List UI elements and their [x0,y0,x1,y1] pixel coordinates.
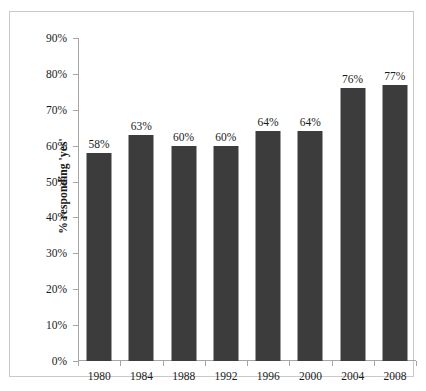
x-axis-tick [163,361,164,366]
bar-value-label: 64% [258,116,279,128]
chart-frame: % responding 'yes' 0%10%20%30%40%50%60%7… [9,11,414,377]
y-axis-tick-label: 50% [21,176,67,188]
x-axis-category-label: 2004 [341,370,364,382]
bar[interactable] [298,131,323,361]
x-axis-category-label: 1996 [257,370,280,382]
bar-value-label: 60% [173,131,194,143]
bar-value-label: 63% [131,120,152,132]
bar-value-label: 64% [300,116,321,128]
bar-value-label: 58% [89,138,110,150]
x-axis-category-label: 1988 [172,370,195,382]
bar-group: 60%1992 [205,38,247,361]
x-axis-tick [205,361,206,366]
x-axis-category-label: 2000 [299,370,322,382]
bar-value-label: 76% [342,73,363,85]
bar[interactable] [256,131,281,361]
bar-group: 63%1984 [120,38,162,361]
bar-chart: % responding 'yes' 0%10%20%30%40%50%60%7… [0,0,426,391]
x-axis-category-label: 1992 [214,370,237,382]
bar-value-label: 60% [215,131,236,143]
bar-value-label: 77% [384,70,405,82]
y-axis-tick-label: 80% [21,68,67,80]
y-axis-tick-label: 70% [21,104,67,116]
x-axis-tick [289,361,290,366]
bar[interactable] [213,146,238,361]
bar[interactable] [87,153,112,361]
y-axis-tick-label: 60% [21,140,67,152]
x-axis-category-label: 1984 [130,370,153,382]
y-axis-tick-label: 20% [21,283,67,295]
x-axis-tick [332,361,333,366]
bar[interactable] [340,88,365,361]
bar-group: 64%1996 [247,38,289,361]
x-axis-tick [120,361,121,366]
x-axis-category-label: 1980 [88,370,111,382]
y-axis-tick-label: 0% [21,355,67,367]
bar[interactable] [382,85,407,361]
x-axis-category-label: 2008 [383,370,406,382]
bar-group: 58%1980 [78,38,120,361]
bar-group: 60%1988 [163,38,205,361]
x-axis-tick [374,361,375,366]
x-axis-tick [247,361,248,366]
bar-group: 76%2004 [332,38,374,361]
bar-group: 64%2000 [289,38,331,361]
plot-area: 0%10%20%30%40%50%60%70%80%90% 58%198063%… [78,38,416,361]
x-axis-tick [78,361,79,366]
bar[interactable] [171,146,196,361]
x-axis-tick [416,361,417,366]
y-axis-tick-label: 90% [21,32,67,44]
bar[interactable] [129,135,154,361]
bar-group: 77%2008 [374,38,416,361]
y-axis-tick-label: 40% [21,211,67,223]
y-axis-tick-label: 10% [21,319,67,331]
y-axis-tick-label: 30% [21,247,67,259]
